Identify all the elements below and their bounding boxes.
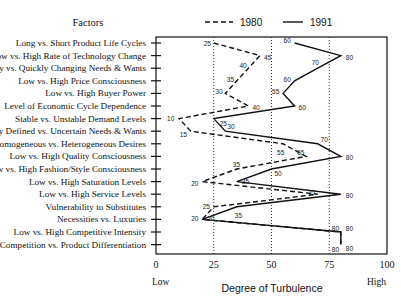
- x-tick-label: 50: [267, 259, 277, 270]
- data-label-1980: 25: [203, 203, 211, 210]
- data-label-1980: 25: [204, 40, 212, 47]
- data-label-1991: 60: [284, 76, 292, 83]
- legend-label-1991: 1991: [310, 17, 333, 28]
- x-high-label: High: [367, 277, 386, 287]
- data-label-1991: 80: [346, 54, 354, 61]
- data-label-1991: 35: [235, 212, 243, 219]
- factor-label: Low vs. High Service Levels: [39, 189, 146, 199]
- data-label-1980: 15: [180, 131, 188, 138]
- data-label-1980: 35: [227, 76, 235, 83]
- data-label-1991: 80: [346, 225, 354, 232]
- data-label-1980: 55: [277, 149, 285, 156]
- factor-label: Low vs. High Saturation Levels: [29, 177, 147, 187]
- factor-label: Low vs. High Rate of Technology Change: [0, 51, 146, 61]
- factor-label: Homogeneous vs. Heterogeneous Desires: [0, 139, 146, 149]
- data-label-1991: 80: [346, 192, 354, 199]
- factor-label: Low vs. High Price Consciousness: [18, 76, 146, 86]
- factor-label: Vulnerability to Substitutes: [45, 202, 146, 212]
- data-label-1991: 80: [346, 245, 354, 252]
- data-label-1980: 80: [332, 225, 340, 232]
- x-tick-labels: 0255075100: [154, 259, 395, 270]
- factor-label: Easily Defined vs. Uncertain Needs & Wan…: [0, 126, 146, 136]
- data-label-1980: 35: [233, 161, 241, 168]
- factor-label: Long vs. Short Product Life Cycles: [16, 38, 147, 48]
- series-lines: [179, 43, 341, 245]
- data-label-1980: 80: [332, 246, 340, 253]
- x-tick-label: 0: [154, 259, 159, 270]
- data-label-1980: 40: [252, 104, 260, 111]
- data-label-1991: 25: [220, 120, 228, 127]
- factor-label: Level of Economic Cycle Dependence: [4, 101, 146, 111]
- data-label-1980: 20: [191, 215, 199, 222]
- turbulence-profile-chart: Factors 1980 1991 Long vs. Short Product…: [0, 0, 401, 303]
- data-label-1991: 60: [284, 37, 292, 44]
- data-label-1980: 70: [308, 189, 316, 196]
- factor-label: Low vs. High Quality Consciousness: [9, 151, 146, 161]
- data-label-1991: 55: [272, 88, 280, 95]
- x-axis-title: Degree of Turbulence: [222, 282, 323, 294]
- factor-label: Stable vs. Unstable Demand Levels: [15, 114, 146, 124]
- legend: 1980 1991: [205, 17, 333, 28]
- data-label-1991: 60: [299, 104, 307, 111]
- data-label-1991: 80: [346, 154, 354, 161]
- data-labels: 2545403530401015556535207025208080608070…: [167, 37, 353, 253]
- data-label-1980: 30: [215, 88, 223, 95]
- x-low-label: Low: [152, 277, 170, 287]
- data-label-1991: 30: [227, 123, 235, 130]
- x-tick-label: 75: [324, 259, 334, 270]
- factor-labels: Long vs. Short Product Life CyclesLow vs…: [0, 38, 146, 250]
- data-label-1991: 35: [242, 178, 250, 185]
- data-label-1991: 70: [321, 136, 329, 143]
- factor-label: Necessities vs. Luxuries: [57, 214, 146, 224]
- data-label-1991: 20: [207, 215, 215, 222]
- data-label-1980: 45: [264, 54, 272, 61]
- data-label-1980: 20: [191, 180, 199, 187]
- factor-label: Low vs. High Buyer Power: [45, 88, 146, 98]
- factor-label: Price Competition vs. Product Differenti…: [0, 240, 146, 250]
- data-label-1980: 65: [297, 149, 305, 156]
- data-label-1991: 50: [275, 170, 283, 177]
- factors-header: Factors: [73, 17, 104, 28]
- factor-label: Slowly vs. Quickly Changing Needs & Want…: [0, 63, 146, 73]
- factor-label: Low vs. High Competitive Intensity: [14, 227, 147, 237]
- data-label-1980: 10: [167, 115, 175, 122]
- legend-label-1980: 1980: [240, 17, 263, 28]
- data-label-1991: 70: [312, 59, 320, 66]
- x-tick-label: 25: [209, 259, 219, 270]
- factor-label: Low vs. High Fashion/Style Consciousness: [0, 164, 146, 174]
- data-label-1980: 40: [239, 62, 247, 69]
- x-tick-label: 100: [380, 259, 395, 270]
